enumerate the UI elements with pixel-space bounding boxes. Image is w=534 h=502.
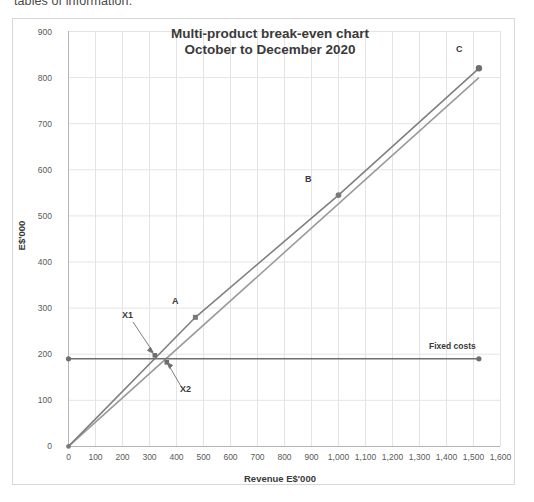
x-tick-400: 400 <box>162 452 191 462</box>
x-gridlines <box>69 31 501 446</box>
chart-title-line2: October to December 2020 <box>184 42 355 57</box>
x-axis-title: Revenue E$'000 <box>180 473 380 484</box>
x-tick-500: 500 <box>189 452 218 462</box>
label-point-a: A <box>172 296 179 306</box>
label-point-b: B <box>305 174 312 184</box>
y-tick-300: 300 <box>22 303 52 313</box>
x-tick-200: 200 <box>108 452 137 462</box>
y-tick-600: 600 <box>22 165 52 175</box>
marker-break-even-x1 <box>153 353 158 358</box>
marker-origin <box>66 444 71 449</box>
label-fixed-costs: Fixed costs <box>429 341 476 351</box>
x-tick-300: 300 <box>135 452 164 462</box>
y-tick-800: 800 <box>22 73 52 83</box>
x-tick-0: 0 <box>54 452 83 462</box>
y-tick-900: 900 <box>22 27 52 37</box>
y-tick-0: 0 <box>22 441 52 451</box>
label-point-c: C <box>456 44 463 54</box>
chart-title: Multi-product break-even chartOctober to… <box>150 26 390 57</box>
series-profit-upper <box>69 68 479 446</box>
y-tick-100: 100 <box>22 395 52 405</box>
marker-point-a <box>193 315 198 320</box>
x-tick-600: 600 <box>216 452 245 462</box>
label-break-even-x1: X1 <box>122 310 133 320</box>
marker-point-c <box>476 65 482 71</box>
y-tick-400: 400 <box>22 257 52 267</box>
x-tick-1600: 1,600 <box>482 452 519 462</box>
plot-area: Multi-product break-even chartOctober to… <box>0 0 534 502</box>
x-tick-100: 100 <box>81 452 110 462</box>
x-tick-700: 700 <box>243 452 272 462</box>
y-axis-title: E$'000 <box>16 206 27 266</box>
y-tick-200: 200 <box>22 349 52 359</box>
chart-page: tables of information. <box>0 0 534 502</box>
chart-title-line1: Multi-product break-even chart <box>171 26 369 41</box>
marker-point-b <box>336 192 342 198</box>
y-tick-500: 500 <box>22 211 52 221</box>
chart-svg <box>0 0 534 502</box>
label-break-even-x2: X2 <box>180 384 191 394</box>
y-tick-700: 700 <box>22 119 52 129</box>
x-tick-800: 800 <box>270 452 299 462</box>
